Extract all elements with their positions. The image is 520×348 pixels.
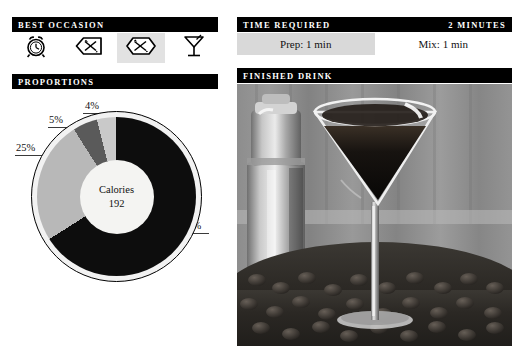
time-cell-prep: Prep: 1 min bbox=[237, 33, 375, 55]
occasion-option-cocktail-hour[interactable] bbox=[170, 33, 218, 63]
calories-value: 192 bbox=[109, 197, 125, 210]
time-cell-mix-label: Mix: 1 min bbox=[418, 38, 468, 50]
finished-drink-title: FINISHED DRINK bbox=[243, 71, 333, 81]
occasion-icon-row bbox=[12, 33, 218, 63]
donut-chart: Calories 192 bbox=[31, 111, 202, 282]
best-occasion-panel: BEST OCCASION bbox=[12, 17, 218, 63]
alarm-clock-icon bbox=[23, 33, 49, 63]
proportions-title: PROPORTIONS bbox=[18, 77, 94, 87]
time-required-header: TIME REQUIRED 2 MINUTES bbox=[237, 17, 512, 32]
occasion-option-dinner[interactable] bbox=[117, 33, 165, 63]
time-cell-mix: Mix: 1 min bbox=[375, 33, 513, 55]
finished-drink-photo bbox=[237, 84, 512, 346]
time-cell-prep-label: Prep: 1 min bbox=[280, 38, 331, 50]
cocktail-glass-icon bbox=[182, 32, 206, 64]
finished-drink-header: FINISHED DRINK bbox=[237, 68, 512, 83]
meal-tag-fork-knife-icon bbox=[74, 33, 104, 63]
time-required-total: 2 MINUTES bbox=[448, 20, 506, 30]
cocktail-shaker bbox=[247, 94, 305, 272]
best-occasion-title: BEST OCCASION bbox=[18, 20, 104, 30]
cocktail-photo-illustration bbox=[237, 84, 512, 346]
calories-label: Calories bbox=[99, 183, 134, 196]
time-required-panel: TIME REQUIRED 2 MINUTES Prep: 1 min Mix:… bbox=[237, 17, 512, 55]
proportions-panel: PROPORTIONS bbox=[12, 74, 218, 89]
best-occasion-header: BEST OCCASION bbox=[12, 17, 218, 32]
time-required-title: TIME REQUIRED bbox=[243, 20, 331, 30]
proportions-header: PROPORTIONS bbox=[12, 74, 218, 89]
proportions-chart: 66% 25% 5% 4% Calories 192 bbox=[0, 92, 230, 342]
recipe-info-card: BEST OCCASION bbox=[0, 0, 520, 348]
meal-tag-fork-knife-outline-icon bbox=[125, 33, 157, 63]
time-breakdown-row: Prep: 1 min Mix: 1 min bbox=[237, 33, 512, 55]
pie-label-3: 4% bbox=[85, 100, 99, 111]
donut-center: Calories 192 bbox=[80, 160, 154, 234]
occasion-option-morning[interactable] bbox=[12, 33, 60, 63]
occasion-option-meal[interactable] bbox=[65, 33, 113, 63]
finished-drink-panel: FINISHED DRINK bbox=[237, 68, 512, 346]
